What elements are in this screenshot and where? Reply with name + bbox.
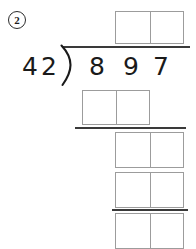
subtraction-line-2 <box>112 209 188 211</box>
subtraction-line-1 <box>75 127 186 129</box>
first-partial-product-box[interactable] <box>82 90 150 125</box>
quotient-answer-box[interactable] <box>115 11 184 44</box>
divisor-digit-tens: 4 <box>20 54 40 79</box>
partial3-cell-right[interactable] <box>150 173 184 207</box>
remainder-answer-box[interactable] <box>115 213 184 249</box>
dividend-digit-hundreds: 8 <box>85 54 109 79</box>
partial2-cell-left[interactable] <box>116 133 150 167</box>
partial1-cell-left[interactable] <box>83 91 116 124</box>
dividend-digit-ones: 7 <box>149 54 173 79</box>
partial1-cell-right[interactable] <box>116 91 149 124</box>
second-partial-product-box[interactable] <box>115 132 184 168</box>
division-bracket-icon <box>59 44 73 86</box>
quotient-cell-ones[interactable] <box>150 12 184 43</box>
remainder-cell-left[interactable] <box>116 214 150 248</box>
third-partial-product-box[interactable] <box>115 172 184 208</box>
quotient-cell-tens[interactable] <box>116 12 150 43</box>
dividend-digit-tens: 9 <box>119 54 143 79</box>
remainder-cell-right[interactable] <box>150 214 184 248</box>
divisor-digit-ones: 2 <box>39 54 59 79</box>
division-bar <box>62 46 190 48</box>
worksheet-problem: 2 4 2 8 9 7 <box>0 0 196 249</box>
partial3-cell-left[interactable] <box>116 173 150 207</box>
problem-number-badge: 2 <box>8 11 26 29</box>
partial2-cell-right[interactable] <box>150 133 184 167</box>
